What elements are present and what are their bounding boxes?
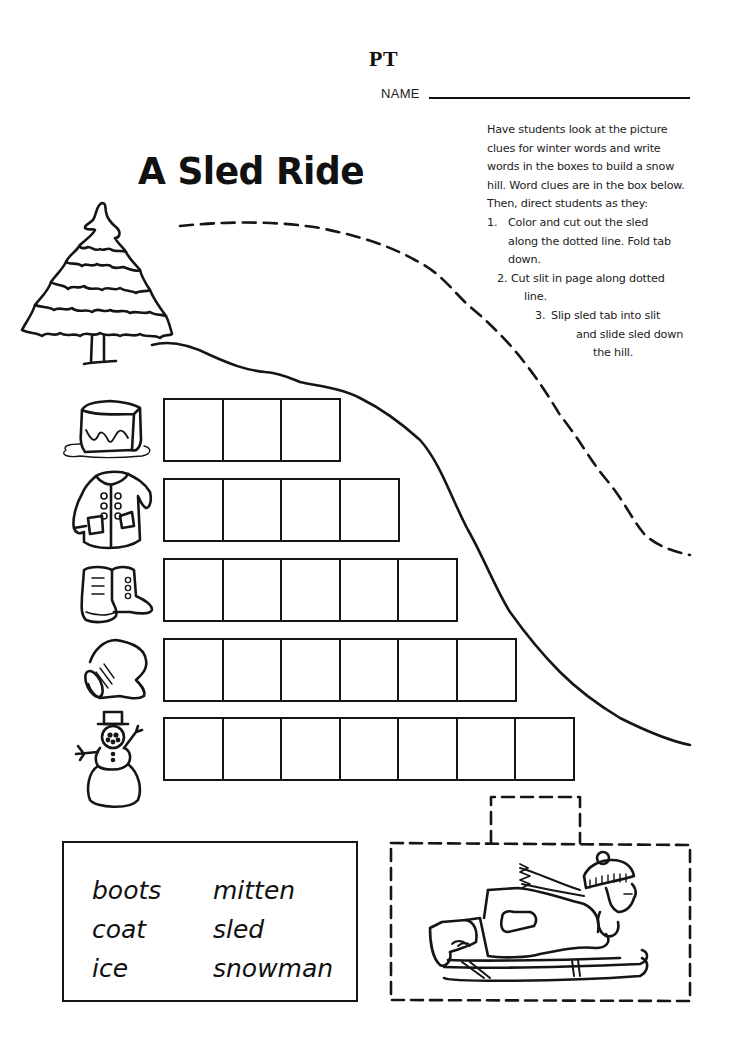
letter-box[interactable] — [514, 717, 575, 781]
coat-icon — [73, 472, 150, 548]
word-bank-item: coat — [92, 912, 213, 947]
answer-row-snowman — [163, 717, 573, 781]
letter-box[interactable] — [397, 638, 458, 702]
letter-box[interactable] — [280, 638, 341, 702]
letter-box[interactable] — [222, 558, 283, 622]
letter-box[interactable] — [280, 717, 341, 781]
letter-box[interactable] — [456, 717, 517, 781]
letter-box[interactable] — [280, 558, 341, 622]
sled-cutout-outline — [391, 843, 690, 1001]
answer-row-mitten — [163, 638, 514, 702]
letter-box[interactable] — [163, 638, 224, 702]
word-bank-item: mitten — [213, 873, 333, 908]
letter-box[interactable] — [397, 558, 458, 622]
word-bank-item: boots — [92, 873, 213, 908]
letter-box[interactable] — [222, 398, 283, 462]
word-bank: boots mitten coat sled ice snowman — [62, 841, 358, 1002]
word-bank-item: sled — [213, 912, 333, 947]
letter-box[interactable] — [163, 398, 224, 462]
letter-box[interactable] — [339, 717, 400, 781]
answer-row-boots — [163, 558, 456, 622]
letter-box[interactable] — [222, 478, 283, 542]
child-on-sled-icon — [430, 852, 647, 981]
boots-icon — [82, 567, 152, 622]
letter-box[interactable] — [222, 717, 283, 781]
mitten-icon — [82, 640, 147, 700]
pine-tree-icon — [22, 203, 172, 364]
snowman-icon — [76, 712, 142, 807]
word-bank-item: ice — [92, 951, 213, 986]
letter-box[interactable] — [222, 638, 283, 702]
letter-box[interactable] — [280, 478, 341, 542]
sled-tab-outline — [491, 797, 580, 843]
ice-cube-icon — [64, 401, 150, 458]
answer-row-coat — [163, 478, 397, 542]
letter-box[interactable] — [397, 717, 458, 781]
letter-box[interactable] — [163, 558, 224, 622]
letter-box[interactable] — [163, 717, 224, 781]
answer-row-ice — [163, 398, 339, 462]
letter-box[interactable] — [339, 478, 400, 542]
letter-box[interactable] — [456, 638, 517, 702]
letter-box[interactable] — [339, 638, 400, 702]
letter-box[interactable] — [339, 558, 400, 622]
letter-box[interactable] — [280, 398, 341, 462]
letter-box[interactable] — [163, 478, 224, 542]
word-bank-item: snowman — [213, 951, 333, 986]
